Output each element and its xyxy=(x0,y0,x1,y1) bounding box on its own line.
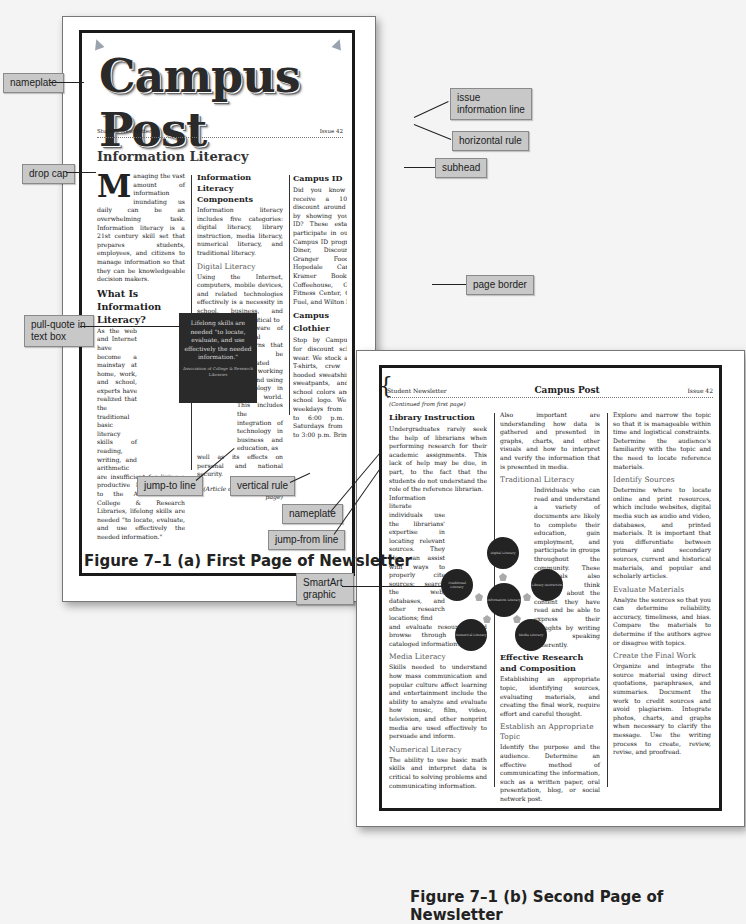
callout-nameplate: nameplate xyxy=(3,73,64,93)
pentagon-icon xyxy=(475,593,483,601)
body-text: Skills needed to understand how mass com… xyxy=(389,663,487,740)
body-text: Determine where to locate online and pri… xyxy=(613,486,711,581)
subhead-evaluate-materials: Evaluate Materials xyxy=(613,585,711,595)
subhead-create-final-work: Create the Final Work xyxy=(613,651,711,661)
callout-jump-to: jump-to line xyxy=(137,476,203,496)
callout-drop-cap: drop cap xyxy=(22,164,75,184)
issue-number: Issue 42 xyxy=(688,387,714,394)
subhead-what-is: What Is Information Literacy? xyxy=(97,287,185,326)
callout-issue-info: issue information line xyxy=(450,88,532,120)
body-text: Establishing an appropriate topic, ident… xyxy=(500,675,600,718)
figure-caption-a: Figure 7–1 (a) First Page of Newsletter xyxy=(84,552,412,570)
body-text: Identify the purpose and the audience. D… xyxy=(500,743,600,803)
body-text: Explore and narrow the topic so that it … xyxy=(613,411,711,471)
callout-horizontal-rule: horizontal rule xyxy=(452,131,529,151)
jump-from-line: (Continued from first page) xyxy=(389,401,466,407)
smartart-node-library: Library Instruction xyxy=(531,569,563,601)
pull-quote-text-box: Lifelong skills are needed "to locate, e… xyxy=(179,313,257,403)
issue-information-line: Student Newsletter Issue 42 xyxy=(97,128,343,134)
callout-vertical-rule: vertical rule xyxy=(230,476,295,496)
issue-left: Student Newsletter xyxy=(387,387,447,394)
figure-caption-b: Figure 7–1 (b) Second Page of Newsletter xyxy=(410,888,746,924)
subhead-campus-id: Campus ID xyxy=(293,172,347,185)
smartart-node-traditional: Traditional Literacy xyxy=(441,569,473,601)
column-3: Campus ID Did you know you can receive a… xyxy=(293,169,347,439)
pentagon-icon xyxy=(499,573,507,581)
newsletter-page-2: Student Newsletter Campus Post Issue 42 … xyxy=(356,350,745,827)
subhead-numerical-literacy: Numerical Literacy xyxy=(389,745,487,755)
drop-cap: M xyxy=(97,173,131,199)
issue-left: Student Newsletter xyxy=(97,128,152,134)
body-text: Did you know you can receive a 10 percen… xyxy=(293,186,347,306)
body-text: well as its effects on personal and nati… xyxy=(197,453,283,479)
vertical-rule xyxy=(289,175,290,415)
newsletter-title: Campus Post xyxy=(534,385,599,395)
pentagon-icon xyxy=(513,615,521,623)
body-text: Analyze the sources so that you can dete… xyxy=(613,596,711,648)
nameplate-title: Campus Post xyxy=(99,49,349,157)
smartart-graphic: Digital Literacy Library Instruction Med… xyxy=(441,537,565,657)
subhead-establish-topic: Establish an Appropriate Topic xyxy=(500,722,600,742)
column-3: Explore and narrow the topic so that it … xyxy=(613,411,711,757)
body-text: Also important are understanding how dat… xyxy=(500,411,600,471)
headline: Information Literacy xyxy=(97,149,249,164)
subhead-identify-sources: Identify Sources xyxy=(613,475,711,485)
brace-icon: { xyxy=(379,375,393,397)
body-text: Information literacy includes five categ… xyxy=(197,206,283,258)
smartart-node-numerical: Numerical Literacy xyxy=(455,619,487,651)
intro-paragraph: Managing the vast amount of information … xyxy=(97,172,185,284)
pentagon-icon xyxy=(523,593,531,601)
callout-subhead: subhead xyxy=(435,158,487,178)
smartart-center: Information Literacy xyxy=(487,583,521,617)
body-text: Stop by Campus Clothier for discount sch… xyxy=(293,336,347,439)
body-text: The ability to use basic math skills and… xyxy=(389,756,487,790)
issue-number: Issue 42 xyxy=(320,128,343,134)
callout-smartart: SmartArt graphic xyxy=(296,573,354,605)
body-text: As the web and Internet have become a ma… xyxy=(97,327,137,473)
horizontal-rule xyxy=(97,135,343,138)
smartart-node-media: Media Literacy xyxy=(515,619,547,651)
subhead-digital-literacy: Digital Literacy xyxy=(197,262,283,272)
body-text: Organize and integrate the source materi… xyxy=(613,662,711,757)
body-text: Undergraduates rarely seek the help of l… xyxy=(389,425,487,494)
issue-information-line: Student Newsletter Campus Post Issue 42 xyxy=(387,385,713,395)
smartart-node-digital: Digital Literacy xyxy=(487,537,519,569)
subhead-library-instruction: Library Instruction xyxy=(389,411,487,424)
subhead-campus-clothier: Campus Clothier xyxy=(293,309,347,335)
vertical-rule xyxy=(607,413,608,787)
pull-quote-text: Lifelong skills are needed "to locate, e… xyxy=(183,319,253,362)
subhead-components: Information Literacy Components xyxy=(197,172,283,205)
subhead-traditional-literacy: Traditional Literacy xyxy=(500,475,600,485)
callout-page-border: page border xyxy=(466,275,534,295)
pull-quote-attribution: Association of College & Research Librar… xyxy=(183,366,253,378)
pentagon-icon xyxy=(483,615,491,623)
nameplate: Campus Post xyxy=(87,39,349,119)
horizontal-rule xyxy=(387,395,713,398)
callout-pull-quote: pull-quote in text box xyxy=(24,315,94,347)
